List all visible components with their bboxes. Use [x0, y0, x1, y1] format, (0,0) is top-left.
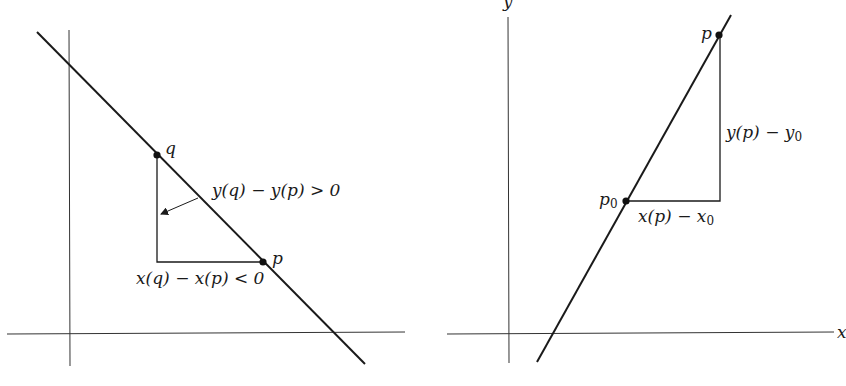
horizontal-diff-sub: 0 — [706, 214, 714, 228]
label-p0-main: p — [599, 189, 610, 209]
right-x-axis — [447, 332, 834, 334]
y-axis-label: y — [502, 0, 513, 11]
right-panel: x y p p0 y(p) − y0 x(p) − x0 — [447, 0, 846, 363]
point-p0 — [622, 197, 629, 204]
arrow-to-vertical-side — [161, 198, 198, 214]
label-q: q — [165, 138, 176, 158]
label-p-right: p — [701, 23, 712, 43]
horizontal-diff-main: x(p) − x — [638, 206, 707, 226]
right-y-axis — [508, 17, 509, 363]
label-horizontal-difference-right: x(p) − x0 — [638, 206, 714, 228]
label-p-left: p — [272, 248, 283, 268]
right-sloped-line — [537, 15, 731, 362]
left-panel: q p y(q) − y(p) > 0 x(q) − x(p) < 0 — [7, 30, 405, 366]
point-q — [153, 151, 160, 158]
label-vertical-difference-right: y(p) − y0 — [725, 122, 802, 144]
label-p0-sub: 0 — [610, 197, 618, 211]
left-y-axis — [69, 30, 70, 366]
label-horizontal-difference-left: x(q) − x(p) < 0 — [136, 268, 265, 288]
vertical-diff-main: y(p) − y — [725, 122, 795, 142]
point-p-right — [715, 31, 722, 38]
label-vertical-difference-left: y(q) − y(p) > 0 — [211, 180, 341, 200]
point-p-left — [259, 258, 266, 265]
x-axis-label: x — [837, 322, 846, 342]
left-x-axis — [7, 332, 405, 334]
slope-diagrams: q p y(q) − y(p) > 0 x(q) − x(p) < 0 x y … — [0, 0, 846, 386]
vertical-diff-sub: 0 — [794, 130, 802, 144]
label-p0: p0 — [599, 189, 618, 211]
